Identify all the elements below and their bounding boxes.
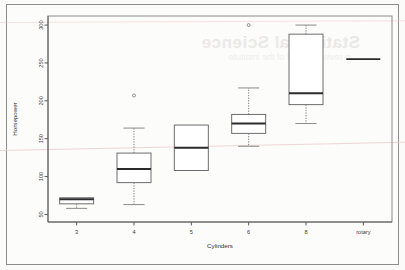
scanned-page: Statistical Science a review journal of … [0,0,405,270]
x-tick-label: rotary [356,229,371,235]
y-tick-label: 200 [38,96,44,105]
x-tick-label: 6 [247,229,250,235]
outlier-point [133,94,136,97]
y-tick-label: 100 [38,172,44,181]
box-group-6 [232,24,266,147]
y-axis: 50100150200250300 [38,16,48,222]
x-axis: 34568rotary [48,222,392,235]
box-group-3 [60,198,94,209]
plot-border [48,16,392,222]
box-rect [117,153,151,183]
boxplot-svg: 50100150200250300 34568rotary Horsepower… [0,0,405,270]
boxplot-figure: 50100150200250300 34568rotary Horsepower… [0,0,405,270]
box-group-4 [117,94,151,205]
outlier-point [247,24,250,27]
y-tick-label: 150 [38,134,44,143]
plot-frame [48,16,392,222]
box-group-5 [174,125,208,170]
y-axis-title: Horsepower [11,102,18,135]
x-axis-title: Cylinders [207,242,233,249]
x-tick-label: 3 [75,229,78,235]
box-series [60,24,381,209]
x-tick-label: 5 [190,229,193,235]
y-tick-label: 250 [38,58,44,67]
y-tick-label: 50 [38,211,44,217]
y-tick-label: 300 [38,20,44,29]
x-tick-label: 8 [304,229,307,235]
x-tick-label: 4 [132,229,135,235]
box-group-8 [289,25,323,123]
